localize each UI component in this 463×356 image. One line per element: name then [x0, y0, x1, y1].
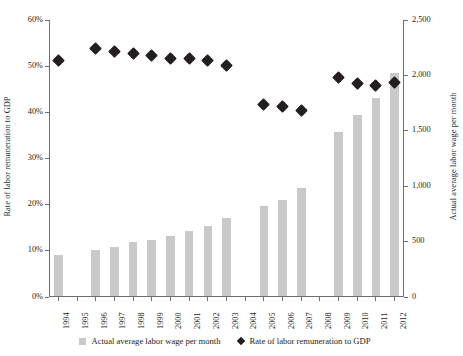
left-tick [45, 297, 49, 298]
data-point-diamond [220, 59, 233, 72]
bar [91, 250, 100, 296]
bar [204, 226, 213, 296]
right-tick [404, 75, 408, 76]
x-tick-label: 1998 [137, 312, 146, 329]
plot-area: 0%10%20%30%40%50%60% 05001,0001,5002,000… [49, 20, 404, 297]
x-tick [338, 297, 339, 301]
bar [110, 247, 119, 296]
left-tick-label: 30% [0, 153, 43, 162]
right-tick-label: 500 [412, 236, 463, 245]
legend-item: Actual average labor wage per month [79, 336, 220, 346]
legend-diamond-icon [236, 337, 244, 345]
x-tick [58, 297, 59, 301]
right-tick-label: 0 [412, 292, 463, 301]
legend-square-icon [79, 338, 86, 345]
x-tick-label: 1999 [156, 312, 165, 329]
right-tick [404, 20, 408, 21]
data-point-diamond [295, 105, 308, 118]
data-point-diamond [127, 47, 140, 60]
chart-legend: Actual average labor wage per monthRate … [0, 336, 450, 346]
bar [297, 188, 306, 296]
legend-label: Actual average labor wage per month [91, 336, 220, 346]
bar [222, 218, 231, 296]
data-point-diamond [89, 42, 102, 55]
left-tick-label: 40% [0, 107, 43, 116]
x-tick-label: 2000 [174, 312, 183, 329]
right-axis-title: Actual average labor wage per month [449, 82, 458, 232]
data-point-diamond [276, 100, 289, 113]
left-tick-label: 20% [0, 199, 43, 208]
right-tick-label: 1,000 [412, 181, 463, 190]
bar [390, 73, 399, 296]
x-tick-label: 1995 [81, 312, 90, 329]
data-point-diamond [52, 54, 65, 67]
x-tick [151, 297, 152, 301]
x-tick-label: 2005 [268, 312, 277, 329]
x-tick [394, 297, 395, 301]
legend-label: Rate of labor remuneration to GDP [250, 336, 371, 346]
bar [372, 98, 381, 296]
data-point-diamond [370, 79, 383, 92]
x-tick [245, 297, 246, 301]
x-tick-label: 2004 [249, 312, 258, 329]
right-tick [404, 241, 408, 242]
x-tick-label: 2011 [380, 313, 389, 329]
bar [147, 240, 156, 296]
x-tick [357, 297, 358, 301]
x-tick-label: 2003 [231, 312, 240, 329]
bar [166, 236, 175, 296]
x-tick [189, 297, 190, 301]
bar [278, 200, 287, 296]
x-tick-label: 2009 [343, 312, 352, 329]
x-tick-label: 2002 [212, 312, 221, 329]
x-tick [114, 297, 115, 301]
x-tick [170, 297, 171, 301]
left-tick-label: 10% [0, 245, 43, 254]
x-tick [319, 297, 320, 301]
x-tick-label: 2007 [305, 312, 314, 329]
data-point-diamond [351, 77, 364, 90]
bar [353, 115, 362, 296]
left-tick [45, 204, 49, 205]
right-tick-label: 1,500 [412, 125, 463, 134]
x-tick [133, 297, 134, 301]
x-tick-label: 2008 [324, 312, 333, 329]
bar [54, 255, 63, 296]
x-tick [95, 297, 96, 301]
legend-item: Rate of labor remuneration to GDP [237, 336, 371, 346]
x-tick-label: 2012 [399, 312, 408, 329]
x-tick [77, 297, 78, 301]
right-tick [404, 297, 408, 298]
x-tick [301, 297, 302, 301]
left-tick-label: 50% [0, 61, 43, 70]
left-tick [45, 66, 49, 67]
left-tick [45, 112, 49, 113]
left-tick [45, 250, 49, 251]
left-tick-label: 60% [0, 15, 43, 24]
data-point-diamond [257, 98, 270, 111]
x-tick-label: 1994 [62, 312, 71, 329]
right-axis-line [403, 20, 404, 297]
x-tick [207, 297, 208, 301]
data-point-diamond [183, 52, 196, 65]
right-tick [404, 186, 408, 187]
x-tick-label: 1996 [100, 312, 109, 329]
right-tick-label: 2,000 [412, 70, 463, 79]
data-point-diamond [108, 45, 121, 58]
left-tick [45, 158, 49, 159]
data-point-diamond [145, 49, 158, 62]
data-point-diamond [332, 71, 345, 84]
data-point-diamond [164, 52, 177, 65]
x-tick-label: 2010 [361, 312, 370, 329]
x-tick [263, 297, 264, 301]
bar [129, 242, 138, 296]
right-tick [404, 130, 408, 131]
x-tick-label: 2001 [193, 312, 202, 329]
left-tick-label: 0% [0, 292, 43, 301]
x-tick-label: 1997 [118, 312, 127, 329]
bar [185, 231, 194, 296]
left-axis-line [49, 20, 50, 297]
x-tick [375, 297, 376, 301]
bar [334, 132, 343, 296]
